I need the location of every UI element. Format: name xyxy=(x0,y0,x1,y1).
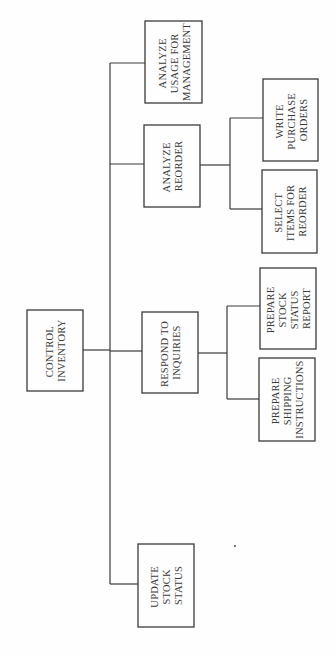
node-select-items-for-reorder: SELECT ITEMS FOR REORDER xyxy=(262,170,317,253)
node-respond-to-inquiries: RESPOND TO INQUIRIES xyxy=(142,312,198,393)
node-label: PREPARE STOCK STATUS REPORT xyxy=(265,284,312,333)
node-analyze-reorder: ANALYZE REORDER xyxy=(144,125,200,207)
node-update-stock-status: UPDATE STOCK STATUS xyxy=(138,544,194,627)
node-label: CONTROL INVENTORY xyxy=(44,319,67,381)
node-control-inventory: CONTROL INVENTORY xyxy=(27,310,83,391)
node-prepare-shipping-instructions: PREPARE SHIPPING INSTRUCTIONS xyxy=(259,358,315,441)
hierarchy-diagram: CONTROL INVENTORY ANALYZE USAGE FOR MANA… xyxy=(0,0,336,656)
scan-speck xyxy=(234,545,236,547)
node-label: UPDATE STOCK STATUS xyxy=(149,563,184,607)
node-label: SELECT ITEMS FOR REORDER xyxy=(273,182,308,241)
node-label: RESPOND TO INQUIRIES xyxy=(159,318,182,387)
node-label: ANALYZE REORDER xyxy=(161,140,184,193)
node-prepare-stock-status-report: PREPARE STOCK STATUS REPORT xyxy=(260,268,316,349)
node-write-purchase-orders: WRITE PURCHASE ORDERS xyxy=(263,79,318,161)
node-analyze-usage: ANALYZE USAGE FOR MANAGEMENT xyxy=(145,21,202,103)
